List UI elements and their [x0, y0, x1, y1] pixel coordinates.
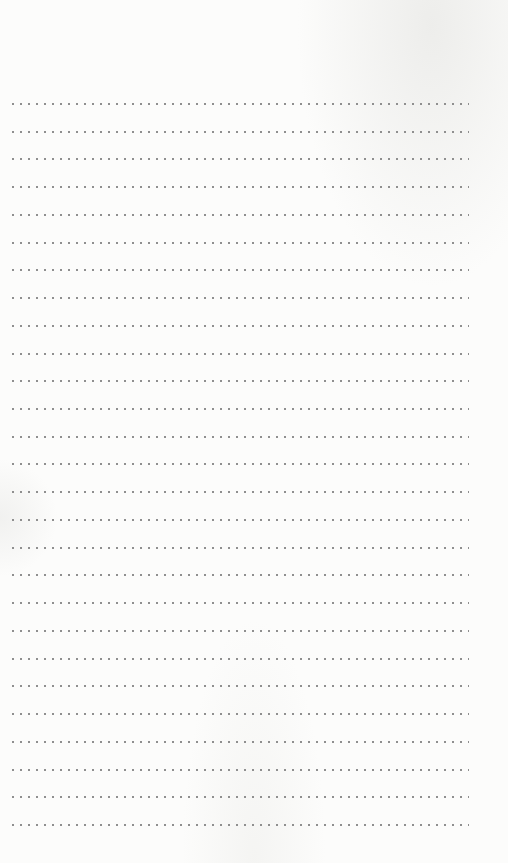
dotted-writing-line: [9, 436, 469, 438]
dotted-writing-line: [9, 103, 469, 105]
dotted-writing-line: [9, 769, 469, 771]
dotted-writing-line: [9, 186, 469, 188]
dotted-writing-line: [9, 796, 469, 798]
dotted-writing-line: [9, 325, 469, 327]
dotted-writing-line: [9, 574, 469, 576]
dotted-writing-line: [9, 131, 469, 133]
dotted-writing-line: [9, 158, 469, 160]
dotted-writing-line: [9, 242, 469, 244]
dotted-writing-line: [9, 353, 469, 355]
dotted-writing-line: [9, 408, 469, 410]
dotted-writing-line: [9, 741, 469, 743]
dotted-writing-line: [9, 547, 469, 549]
notepaper-page: [0, 0, 508, 863]
dotted-writing-line: [9, 630, 469, 632]
dotted-writing-line: [9, 491, 469, 493]
dotted-writing-line: [9, 685, 469, 687]
dotted-writing-line: [9, 658, 469, 660]
dotted-lines-container: [0, 0, 508, 863]
dotted-writing-line: [9, 824, 469, 826]
dotted-writing-line: [9, 269, 469, 271]
dotted-writing-line: [9, 214, 469, 216]
dotted-writing-line: [9, 463, 469, 465]
dotted-writing-line: [9, 380, 469, 382]
dotted-writing-line: [9, 519, 469, 521]
dotted-writing-line: [9, 297, 469, 299]
dotted-writing-line: [9, 602, 469, 604]
dotted-writing-line: [9, 713, 469, 715]
